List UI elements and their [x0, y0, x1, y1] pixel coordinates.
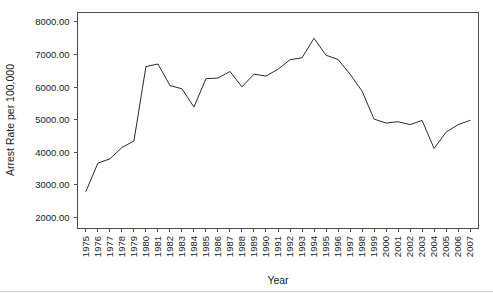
- x-axis-tick-label: 1998: [356, 236, 367, 257]
- x-axis-tick-label: 1999: [368, 236, 379, 257]
- y-axis-tick-label: 6000.00: [35, 82, 69, 93]
- x-axis-tick-label: 1979: [128, 236, 139, 257]
- x-axis-tick-label: 1985: [200, 236, 211, 257]
- x-axis-tick-label: 1995: [320, 236, 331, 257]
- x-axis-tick-label: 1990: [260, 236, 271, 257]
- x-axis-tick-label: 1988: [236, 236, 247, 257]
- x-axis-tick-label: 1993: [296, 236, 307, 257]
- line-chart: 2000.003000.004000.005000.006000.007000.…: [0, 0, 493, 294]
- x-axis-tick-label: 1981: [152, 236, 163, 257]
- x-axis-tick-label: 1987: [224, 236, 235, 257]
- x-axis-tick-label: 2003: [416, 236, 427, 257]
- y-axis-tick-label: 7000.00: [35, 49, 69, 60]
- x-axis-tick-label: 1989: [248, 236, 259, 257]
- x-axis-tick-label: 1975: [80, 236, 91, 257]
- y-axis-tick-label: 8000.00: [35, 16, 69, 27]
- x-axis-tick-label: 1983: [176, 236, 187, 257]
- y-axis-tick-label: 2000.00: [35, 212, 69, 223]
- x-axis-tick-label: 1984: [188, 236, 199, 257]
- x-axis-tick-label: 1994: [308, 236, 319, 257]
- x-axis-title: Year: [267, 274, 289, 286]
- y-axis: 2000.003000.004000.005000.006000.007000.…: [35, 16, 77, 223]
- x-axis-tick-label: 1982: [164, 236, 175, 257]
- x-axis-tick-label: 1976: [92, 236, 103, 257]
- x-axis-tick-label: 2001: [392, 236, 403, 257]
- x-axis-tick-label: 1986: [212, 236, 223, 257]
- x-axis-tick-label: 1977: [104, 236, 115, 257]
- chart-figure: 2000.003000.004000.005000.006000.007000.…: [0, 0, 493, 294]
- x-axis: 1975197619771978197919801981198219831984…: [80, 228, 475, 257]
- y-axis-tick-label: 3000.00: [35, 179, 69, 190]
- x-axis-tick-label: 2006: [452, 236, 463, 257]
- y-axis-tick-label: 5000.00: [35, 114, 69, 125]
- x-axis-tick-label: 1992: [284, 236, 295, 257]
- x-axis-tick-label: 1991: [272, 236, 283, 257]
- x-axis-tick-label: 2002: [404, 236, 415, 257]
- y-axis-tick-label: 4000.00: [35, 147, 69, 158]
- x-axis-tick-label: 1997: [344, 236, 355, 257]
- x-axis-tick-label: 1980: [140, 236, 151, 257]
- y-axis-title: Arrest Rate per 100,000: [4, 64, 16, 176]
- x-axis-tick-label: 2005: [440, 236, 451, 257]
- x-axis-tick-label: 1978: [116, 236, 127, 257]
- x-axis-tick-label: 1996: [332, 236, 343, 257]
- x-axis-tick-label: 2004: [428, 236, 439, 257]
- x-axis-tick-label: 2007: [464, 236, 475, 257]
- data-series-line: [86, 38, 470, 191]
- x-axis-tick-label: 2000: [380, 236, 391, 257]
